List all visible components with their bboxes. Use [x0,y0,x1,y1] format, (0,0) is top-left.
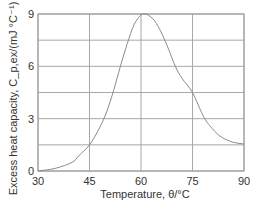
x-tick-labels: 3045607590 [32,175,250,187]
x-tick-label: 60 [135,175,147,187]
y-tick-label: 0 [28,165,34,177]
x-axis-title: Temperature, θ/°C [100,188,189,200]
chart: 3045607590 0369 Temperature, θ/°C Excess… [0,0,260,202]
x-tick-label: 45 [83,175,95,187]
y-tick-label: 3 [28,113,34,125]
y-tick-label: 9 [28,8,34,20]
x-tick-label: 90 [238,175,250,187]
x-tick-label: 75 [186,175,198,187]
y-tick-label: 6 [28,60,34,72]
grid-lines [38,14,244,171]
y-tick-labels: 0369 [28,8,34,177]
y-axis-title: Excess heat capacity, C_p,ex/(mJ °C⁻¹) [7,2,19,196]
